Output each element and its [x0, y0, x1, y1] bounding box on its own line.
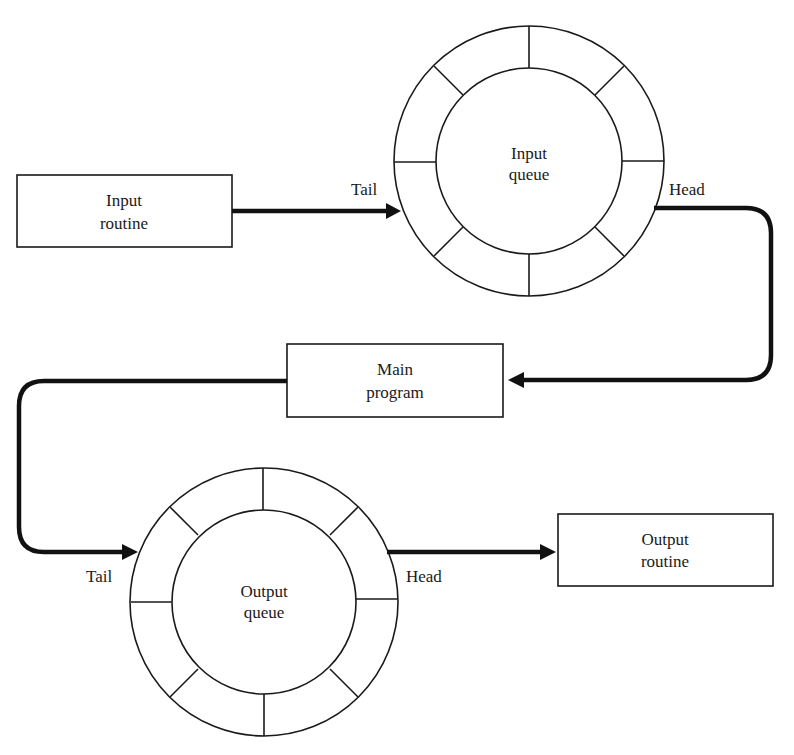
output-routine-label-line2: routine	[641, 552, 689, 571]
input-queue-head-label: Head	[669, 180, 705, 199]
output-queue-tail-label: Tail	[86, 567, 112, 586]
input-routine-box	[17, 175, 232, 247]
output-routine-label-line1: Output	[641, 530, 689, 549]
output-queue-inner-circle	[172, 510, 356, 694]
output-queue-node: Output queue	[130, 468, 398, 736]
queue-flow-diagram: Input routine Tail Input queue Head Main…	[0, 0, 794, 755]
input-queue-node: Input queue	[394, 26, 664, 296]
output-queue-head-label: Head	[406, 567, 442, 586]
input-routine-label-line2: routine	[100, 214, 148, 233]
main-program-label-line2: program	[366, 383, 424, 402]
main-program-node: Main program	[287, 344, 503, 417]
arrow-input-routine-to-input-queue	[232, 203, 401, 219]
input-queue-tail-label: Tail	[351, 180, 377, 199]
arrowhead-icon	[540, 544, 556, 560]
output-queue-label-line1: Output	[240, 582, 288, 601]
output-routine-node: Output routine	[558, 514, 773, 586]
input-queue-label-line1: Input	[511, 144, 547, 163]
arrowhead-icon	[386, 203, 401, 219]
arrowhead-icon	[122, 544, 138, 560]
input-routine-label-line1: Input	[106, 191, 142, 210]
input-queue-label-line2: queue	[509, 165, 550, 184]
output-routine-box	[558, 514, 773, 586]
output-queue-label-line2: queue	[244, 603, 285, 622]
input-routine-node: Input routine	[17, 175, 232, 247]
arrow-output-queue-to-output-routine	[387, 544, 556, 560]
arrowhead-icon	[508, 372, 524, 388]
main-program-label-line1: Main	[377, 360, 413, 379]
main-program-box	[287, 344, 503, 417]
